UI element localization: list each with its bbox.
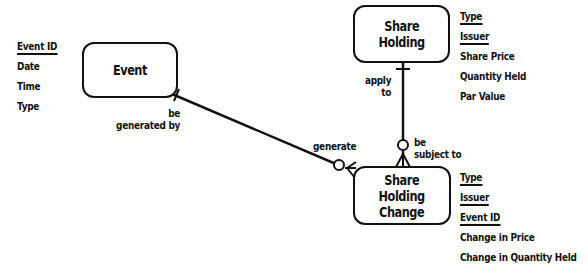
- attribute: Share Price: [460, 49, 526, 69]
- attribute-key: Event ID: [460, 210, 577, 230]
- attribute-list-event: Event ID Date Time Type: [17, 39, 62, 119]
- entity-name: Share Holding: [378, 18, 424, 50]
- entity-share-holding[interactable]: Share Holding: [353, 5, 450, 63]
- er-diagram: Event Event ID Date Time Type Share Hold…: [0, 0, 588, 276]
- relationship-label-be-generated-by: be generated by: [116, 108, 180, 132]
- attribute-list-share-holding-change: Type Issuer Event ID Change in Price Cha…: [460, 170, 588, 270]
- attribute-key: Event ID: [17, 39, 57, 59]
- relationship-label-apply-to: apply to: [365, 75, 391, 99]
- attribute-list-share-holding: Type Issuer Share Price Quantity Held Pa…: [460, 9, 534, 109]
- attribute: Type: [17, 99, 57, 119]
- relationship-event-generates-change: [172, 89, 356, 178]
- relationship-label-be-subject-to: be subject to: [414, 137, 461, 161]
- attribute: Change in Quantity Held: [460, 250, 577, 270]
- attribute-key: Issuer: [460, 190, 577, 210]
- attribute: Quantity Held: [460, 69, 526, 89]
- relationship-holding-applies-change: [396, 62, 410, 167]
- entity-share-holding-change[interactable]: Share Holding Change: [353, 166, 451, 225]
- zero-cardinality-circle-icon: [334, 160, 344, 170]
- entity-name: Share Holding Change: [379, 172, 425, 220]
- zero-cardinality-circle-icon: [398, 140, 408, 150]
- attribute-key: Issuer: [460, 29, 526, 49]
- attribute-key: Type: [460, 170, 577, 190]
- entity-name: Event: [113, 62, 147, 78]
- attribute-key: Type: [460, 9, 526, 29]
- entity-event[interactable]: Event: [82, 42, 178, 98]
- attribute: Par Value: [460, 89, 526, 109]
- attribute: Time: [17, 79, 57, 99]
- relationship-label-generate: generate: [313, 141, 356, 153]
- attribute: Date: [17, 59, 57, 79]
- attribute: Change in Price: [460, 230, 577, 250]
